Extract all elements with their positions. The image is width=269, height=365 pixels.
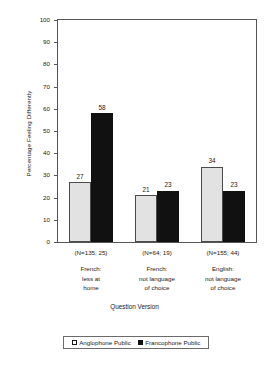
x-group-description: French:not languageof choice xyxy=(124,264,190,293)
bar-value-label: 58 xyxy=(98,104,105,112)
bar-francophone-2 xyxy=(157,191,179,242)
y-tick-label: 10 xyxy=(43,216,50,224)
bar-anglophone-3 xyxy=(201,167,223,242)
legend-item-francophone: Francophone Public xyxy=(138,339,201,346)
x-group-description: English:not languageof choice xyxy=(190,264,256,293)
x-group-label-3: (N=155; 44)English:not languageof choice xyxy=(190,248,256,293)
bar-francophone-1 xyxy=(91,113,113,242)
y-tick-label: 80 xyxy=(43,60,50,68)
legend-item-anglophone: Anglophone Public xyxy=(72,339,131,346)
bar-group-1: 2758 xyxy=(58,20,124,242)
x-group-sample-size: (N=64; 19) xyxy=(124,248,190,257)
x-group-label-2: (N=64; 19)French:not languageof choice xyxy=(124,248,190,293)
bar-value-label: 21 xyxy=(142,186,149,194)
bar-value-label: 34 xyxy=(208,157,215,165)
legend-swatch-francophone-icon xyxy=(138,340,143,345)
x-group-description-line: French: xyxy=(124,264,190,274)
x-group-description-line: not language xyxy=(190,274,256,284)
bar-anglophone-2 xyxy=(135,195,157,242)
y-tick-label: 50 xyxy=(43,127,50,135)
chart-legend: Anglophone Public Francophone Public xyxy=(63,336,209,349)
legend-swatch-anglophone-icon xyxy=(72,340,77,345)
x-group-description-line: of choice xyxy=(190,283,256,293)
x-group-description-line: French: xyxy=(58,264,124,274)
x-group-description-line: not language xyxy=(124,274,190,284)
x-group-sample-size: (N=155; 44) xyxy=(190,248,256,257)
x-group-sample-size: (N=135; 25) xyxy=(58,248,124,257)
x-axis-group-labels: (N=135; 25)French:less athome(N=64; 19)F… xyxy=(58,248,256,308)
bar-chart-figure: Percentage Feeling Differently 100908070… xyxy=(0,0,269,365)
legend-label-anglophone: Anglophone Public xyxy=(79,339,131,346)
y-tick-label: 20 xyxy=(43,194,50,202)
legend-label-francophone: Francophone Public xyxy=(145,339,200,346)
y-tick-label: 30 xyxy=(43,171,50,179)
x-group-description-line: home xyxy=(58,283,124,293)
y-tick-label: 60 xyxy=(43,105,50,113)
x-group-description: French:less athome xyxy=(58,264,124,293)
bar-value-label: 27 xyxy=(76,173,83,181)
x-group-description-line: of choice xyxy=(124,283,190,293)
bar-group-2: 2123 xyxy=(124,20,190,242)
bar-value-label: 23 xyxy=(230,181,237,189)
y-tick-label: 90 xyxy=(43,38,50,46)
y-tick-label: 0 xyxy=(47,238,50,246)
x-group-label-1: (N=135; 25)French:less athome xyxy=(58,248,124,293)
bar-group-3: 3423 xyxy=(190,20,256,242)
bar-anglophone-1 xyxy=(69,182,91,242)
bar-value-label: 23 xyxy=(164,181,171,189)
y-tick-label: 70 xyxy=(43,83,50,91)
x-group-description-line: less at xyxy=(58,274,124,284)
y-tick-label: 40 xyxy=(43,149,50,157)
bar-francophone-3 xyxy=(223,191,245,242)
x-axis-title: Question Version xyxy=(0,303,269,310)
bars-layer: 275821233423 xyxy=(58,20,256,242)
y-tick-label: 100 xyxy=(40,16,50,24)
y-axis-title: Percentage Feeling Differently xyxy=(25,44,32,224)
x-group-description-line: English: xyxy=(190,264,256,274)
